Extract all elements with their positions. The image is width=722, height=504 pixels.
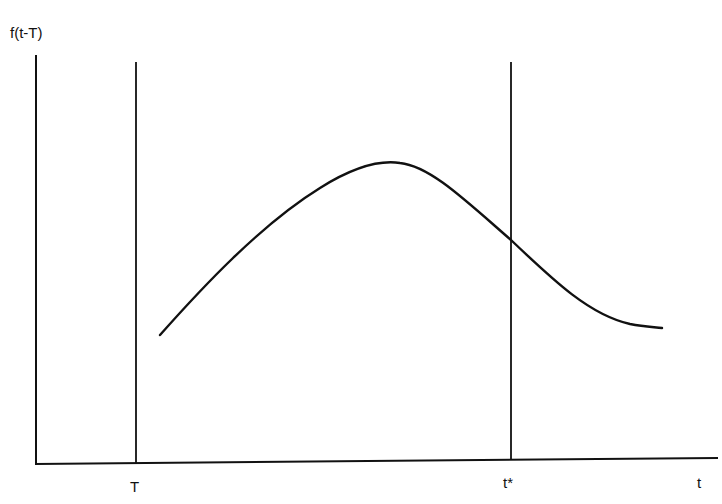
tick-label-tstar: t*	[503, 474, 513, 491]
tick-label-T: T	[130, 478, 139, 495]
x-axis-label: t	[697, 474, 701, 491]
chart	[0, 0, 722, 504]
curve-f	[160, 162, 662, 335]
y-axis-label: f(t-T)	[10, 24, 42, 41]
x-axis	[35, 458, 718, 464]
